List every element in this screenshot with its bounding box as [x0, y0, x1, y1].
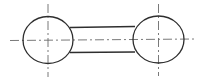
link-top-edge: [70, 27, 135, 28]
connecting-link-drawing: [0, 0, 204, 82]
link-bottom-edge: [70, 52, 135, 53]
horizontal-centerline: [10, 39, 196, 41]
